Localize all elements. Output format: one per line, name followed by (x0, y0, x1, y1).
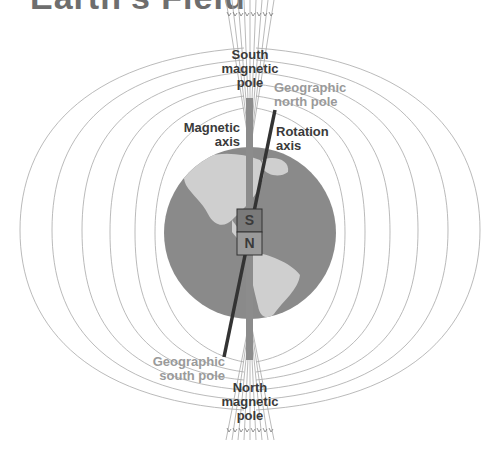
magnetic-axis-label: Magnetic axis (170, 121, 240, 149)
magnet-n-pole-label: N (237, 236, 262, 250)
magnet-s-pole-label: S (237, 213, 262, 227)
north-magnetic-pole-label: North magnetic pole (215, 381, 285, 423)
geographic-south-pole-label: Geographic south pole (145, 355, 225, 383)
rotation-axis-label: Rotation axis (276, 125, 329, 153)
geographic-north-pole-label: Geographic north pole (274, 81, 346, 109)
